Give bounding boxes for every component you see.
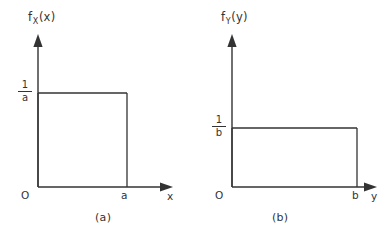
- fraction-denominator-b: b: [212, 128, 226, 139]
- panel-caption-a: (a): [95, 212, 111, 223]
- uniform-pdf-curve-b: [232, 128, 357, 187]
- figure-panel-a: fX(x) 1 a O a x (a): [0, 0, 195, 236]
- fraction-denominator-a: a: [18, 93, 32, 104]
- x-axis-label-a: x: [167, 191, 173, 202]
- y-axis-label-a-argument: (x): [39, 10, 55, 24]
- x-axis-label-b: y: [371, 191, 377, 202]
- y-axis-label-a: fX(x): [28, 12, 55, 26]
- origin-label-b: O: [215, 190, 223, 201]
- uniform-pdf-curve-a: [38, 93, 127, 187]
- y-tick-label-one-over-b: 1 b: [212, 115, 226, 138]
- panel-a-plot: [0, 0, 195, 236]
- fraction-numerator-b: 1: [212, 115, 226, 126]
- fraction-numerator-a: 1: [18, 80, 32, 91]
- y-axis-label-b: fY(y): [221, 12, 248, 26]
- panel-caption-b: (b): [272, 212, 288, 223]
- x-axis-a: [38, 182, 173, 191]
- y-axis-label-a-subscript: X: [32, 17, 39, 26]
- y-tick-label-one-over-a: 1 a: [18, 80, 32, 103]
- x-tick-label-b: b: [352, 190, 359, 201]
- figure-panel-b: fY(y) 1 b O b y (b): [196, 0, 391, 236]
- origin-label-a: O: [21, 190, 29, 201]
- x-tick-label-a: a: [121, 190, 127, 201]
- figure-root: fX(x) 1 a O a x (a): [0, 0, 391, 236]
- y-axis-label-b-argument: (y): [231, 10, 247, 24]
